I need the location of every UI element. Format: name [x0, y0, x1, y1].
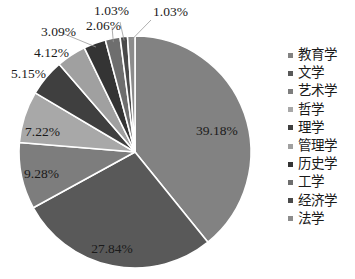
legend-swatch-icon — [288, 53, 293, 58]
legend-item-jiaoyuxue[interactable]: 教育学 — [288, 46, 354, 64]
slice-label-value: 7.22% — [25, 124, 60, 139]
slice-label-value: 9.28% — [24, 166, 59, 181]
legend-item-label: 工学 — [298, 173, 324, 191]
legend-item-wenxue[interactable]: 文学 — [288, 64, 354, 82]
legend-swatch-icon — [288, 107, 293, 112]
legend-item-jingjixue[interactable]: 经济学 — [288, 192, 354, 210]
legend-item-lishixue[interactable]: 历史学 — [288, 155, 354, 173]
slice-label-value: 5.15% — [11, 66, 46, 81]
slice-label-value: 27.84% — [91, 241, 133, 256]
legend-swatch-icon — [288, 71, 293, 76]
legend-swatch-icon — [288, 198, 293, 203]
legend-item-gongxue[interactable]: 工学 — [288, 173, 354, 191]
legend-item-zhexue[interactable]: 哲学 — [288, 101, 354, 119]
slice-label-value: 2.06% — [86, 18, 121, 33]
legend-swatch-icon — [288, 125, 293, 130]
pie-slices-group — [19, 36, 251, 268]
legend-item-lixue[interactable]: 理学 — [288, 119, 354, 137]
legend-item-yishuxue[interactable]: 艺术学 — [288, 82, 354, 100]
legend-item-label: 哲学 — [298, 101, 324, 119]
pie-chart-figure: 39.18% 27.84% 9.28% 7.22% 5.15% 4.12% 3.… — [0, 0, 355, 279]
legend-item-faxue[interactable]: 法学 — [288, 210, 354, 228]
legend-item-label: 法学 — [298, 210, 324, 228]
slice-label-value: 3.09% — [41, 24, 76, 39]
legend-swatch-icon — [288, 162, 293, 167]
legend-swatch-icon — [288, 89, 293, 94]
legend-item-label: 管理学 — [298, 137, 337, 155]
legend-item-label: 理学 — [298, 119, 324, 137]
slice-label-value: 4.12% — [34, 45, 69, 60]
legend-item-guanlixue[interactable]: 管理学 — [288, 137, 354, 155]
legend-swatch-icon — [288, 180, 293, 185]
legend-item-label: 历史学 — [298, 155, 337, 173]
legend-swatch-icon — [288, 216, 293, 221]
chart-legend: 教育学 文学 艺术学 哲学 理学 管理学 历史学 工学 — [288, 46, 354, 228]
slice-label-value: 1.03% — [94, 3, 129, 18]
legend-item-label: 文学 — [298, 64, 324, 82]
legend-item-label: 教育学 — [298, 46, 337, 64]
slice-label-value: 39.18% — [196, 123, 238, 138]
legend-item-label: 经济学 — [298, 192, 337, 210]
legend-swatch-icon — [288, 144, 293, 149]
slice-label-value: 1.03% — [153, 4, 188, 19]
legend-item-label: 艺术学 — [298, 82, 337, 100]
